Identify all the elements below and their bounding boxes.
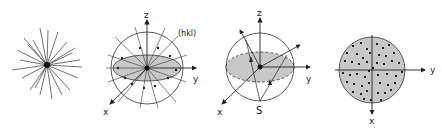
z-label: z — [257, 8, 262, 18]
y-label: y — [193, 74, 199, 84]
y-label: y — [306, 74, 312, 84]
panel-d-stereogram: y x — [335, 35, 436, 126]
x-label: x — [103, 107, 109, 117]
panel-a-normals-bundle — [12, 28, 82, 99]
panel-c-projection-construction: z y x S — [217, 8, 312, 117]
y-label: y — [430, 65, 436, 75]
x-label: x — [217, 107, 223, 117]
stereographic-projection-figure: z y x (hkl) z y x S — [0, 0, 442, 134]
panel-b-reference-sphere: z y x (hkl) — [103, 10, 199, 117]
z-label: z — [144, 10, 149, 20]
x-label: x — [369, 116, 375, 126]
south-pole-label: S — [256, 105, 262, 116]
hkl-label: (hkl) — [178, 29, 196, 38]
